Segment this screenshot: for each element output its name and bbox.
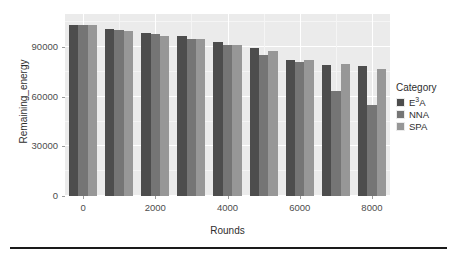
legend-items: E3ANNASPA bbox=[396, 97, 455, 132]
bar bbox=[223, 45, 232, 196]
x-tick-mark bbox=[228, 196, 229, 199]
bar bbox=[78, 25, 87, 196]
legend-key-icon bbox=[396, 98, 405, 107]
bar bbox=[341, 64, 350, 196]
bar bbox=[295, 62, 304, 196]
bar bbox=[141, 33, 150, 196]
x-tick-label: 4000 bbox=[198, 203, 258, 213]
bar bbox=[88, 25, 97, 196]
y-tick-label: 60000 bbox=[32, 92, 58, 102]
legend-color-swatch bbox=[397, 123, 404, 130]
x-tick-label: 8000 bbox=[342, 203, 402, 213]
bar bbox=[160, 36, 169, 196]
bar-group bbox=[286, 14, 314, 196]
bar-group bbox=[250, 14, 278, 196]
x-axis-title: Rounds bbox=[65, 225, 390, 236]
legend-item[interactable]: SPA bbox=[396, 121, 455, 132]
bar-group bbox=[141, 14, 169, 196]
bar bbox=[124, 31, 133, 196]
bar bbox=[304, 60, 313, 196]
legend-key-icon bbox=[396, 110, 405, 119]
x-tick-label: 6000 bbox=[270, 203, 330, 213]
y-tick-mark bbox=[62, 47, 65, 48]
bar-group bbox=[177, 14, 205, 196]
y-tick-mark bbox=[62, 146, 65, 147]
legend-item-label: NNA bbox=[409, 110, 429, 120]
legend-color-swatch bbox=[397, 111, 404, 118]
y-tick-mark bbox=[62, 196, 65, 197]
plot-panel bbox=[65, 14, 390, 196]
bar bbox=[177, 36, 186, 196]
bar-group bbox=[213, 14, 241, 196]
bar-chart-figure: Remaining_energy Rounds Category E3ANNAS… bbox=[0, 0, 455, 260]
bar-group bbox=[322, 14, 350, 196]
bar-group bbox=[358, 14, 386, 196]
x-tick-label: 0 bbox=[53, 203, 113, 213]
bar bbox=[286, 60, 295, 197]
x-tick-mark bbox=[372, 196, 373, 199]
bar bbox=[151, 34, 160, 196]
x-tick-label: 2000 bbox=[125, 203, 185, 213]
bar bbox=[268, 51, 277, 196]
legend-item-label: SPA bbox=[409, 122, 427, 132]
legend-key-icon bbox=[396, 122, 405, 131]
x-tick-mark bbox=[83, 196, 84, 199]
bar bbox=[250, 48, 259, 196]
bar bbox=[358, 66, 367, 196]
bar bbox=[367, 105, 376, 196]
legend-item[interactable]: E3A bbox=[396, 97, 455, 108]
bar bbox=[114, 30, 123, 196]
bar-group bbox=[69, 14, 97, 196]
bar bbox=[331, 91, 340, 196]
x-tick-mark bbox=[300, 196, 301, 199]
legend-color-swatch bbox=[397, 99, 404, 106]
bar bbox=[69, 25, 78, 196]
bar bbox=[105, 29, 114, 196]
legend-title: Category bbox=[396, 82, 455, 93]
bar bbox=[377, 69, 386, 196]
y-tick-label: 30000 bbox=[32, 141, 58, 151]
y-tick-label: 0 bbox=[53, 191, 58, 201]
legend-item[interactable]: NNA bbox=[396, 109, 455, 120]
bar bbox=[259, 55, 268, 196]
y-tick-mark bbox=[62, 97, 65, 98]
bar bbox=[232, 45, 241, 196]
bar bbox=[322, 65, 331, 196]
bar bbox=[187, 39, 196, 196]
bar-group bbox=[105, 14, 133, 196]
legend: Category E3ANNASPA bbox=[396, 82, 455, 133]
bar bbox=[213, 42, 222, 196]
legend-item-label: E3A bbox=[409, 98, 426, 108]
bar bbox=[196, 39, 205, 196]
bottom-divider bbox=[10, 247, 447, 249]
y-tick-label: 90000 bbox=[32, 42, 58, 52]
x-tick-mark bbox=[155, 196, 156, 199]
